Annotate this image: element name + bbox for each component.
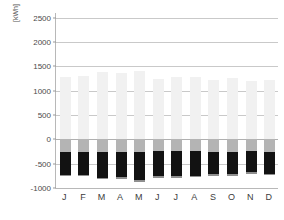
bar-segment-negative-black (134, 152, 145, 180)
bar-segment-positive-light (246, 81, 257, 139)
x-tick-label: D (265, 192, 272, 202)
bar-segment-negative-black (208, 152, 219, 175)
bar-segment-negative-black (153, 151, 164, 176)
x-tick-label: J (62, 192, 67, 202)
bar-segment-negative-gray-lower (208, 174, 219, 176)
bar-group[interactable] (171, 13, 182, 188)
bar-segment-positive-light (264, 80, 275, 139)
bar-segment-negative-gray-lower (78, 175, 89, 177)
x-tick-label: M (98, 192, 106, 202)
bar-segment-negative-black (171, 151, 182, 176)
bar-group[interactable] (134, 13, 145, 188)
x-axis-line (55, 188, 278, 189)
x-axis-ticks: JFMAMJJASOND (55, 192, 278, 212)
y-tick-label: -1000 (31, 184, 51, 193)
bar-segment-negative-gray-upper (246, 139, 257, 151)
energy-bar-chart: [kWh] 25002000150010005000-500-1000 JFMA… (0, 0, 284, 220)
plot-area: 25002000150010005000-500-1000 (55, 13, 278, 188)
bar-segment-negative-gray-lower (60, 175, 71, 176)
bar-segment-positive-light (190, 77, 201, 140)
bar-segment-negative-black (97, 152, 108, 178)
bar-segment-positive-light (227, 78, 238, 139)
bar-group[interactable] (60, 13, 71, 188)
bar-segment-negative-black (264, 152, 275, 174)
bar-group[interactable] (264, 13, 275, 188)
bar-group[interactable] (190, 13, 201, 188)
bar-segment-positive-light (208, 80, 219, 140)
y-tick-label: 1500 (33, 62, 51, 71)
bar-segment-positive-light (134, 71, 145, 139)
bar-segment-positive-light (153, 79, 164, 140)
bar-segment-negative-gray-upper (264, 139, 275, 151)
bar-group[interactable] (153, 13, 164, 188)
bar-segment-negative-gray-lower (190, 176, 201, 178)
bar-segment-negative-gray-lower (227, 174, 238, 176)
x-tick-label: J (174, 192, 179, 202)
bar-segment-negative-gray-upper (227, 139, 238, 151)
bar-segment-negative-black (60, 152, 71, 175)
bar-segment-negative-black (116, 152, 127, 177)
x-tick-label: J (155, 192, 160, 202)
bar-segment-negative-black (227, 152, 238, 175)
bar-segment-negative-gray-lower (134, 180, 145, 182)
x-tick-label: O (228, 192, 235, 202)
y-tick-label: -500 (35, 159, 51, 168)
x-tick-label: A (117, 192, 123, 202)
y-tick-label: 2000 (33, 38, 51, 47)
bar-segment-negative-gray-lower (171, 176, 182, 178)
bar-segment-negative-gray-upper (116, 139, 127, 151)
bar-segment-negative-gray-lower (246, 172, 257, 173)
x-tick-label: F (80, 192, 86, 202)
bar-group[interactable] (78, 13, 89, 188)
bar-group[interactable] (227, 13, 238, 188)
bar-segment-positive-light (60, 77, 71, 140)
bar-group[interactable] (116, 13, 127, 188)
bar-segment-positive-light (78, 76, 89, 139)
x-tick-label: A (191, 192, 197, 202)
bar-segment-negative-gray-upper (78, 139, 89, 151)
x-tick-label: S (210, 192, 216, 202)
bar-segment-negative-gray-upper (60, 139, 71, 151)
x-tick-label: M (135, 192, 143, 202)
bar-segment-negative-gray-lower (264, 174, 275, 176)
y-tick-label: 500 (38, 111, 51, 120)
bar-segment-negative-gray-upper (190, 139, 201, 151)
bar-segment-negative-gray-upper (153, 139, 164, 151)
bar-group[interactable] (97, 13, 108, 188)
bar-segment-negative-black (78, 152, 89, 175)
bar-segment-negative-gray-upper (208, 139, 219, 151)
y-axis-unit-label: [kWh] (12, 0, 24, 22)
bar-segment-positive-light (116, 73, 127, 140)
bars-layer (56, 13, 278, 188)
bar-segment-positive-light (171, 77, 182, 140)
y-tick-label: 1000 (33, 86, 51, 95)
x-tick-label: N (247, 192, 254, 202)
bar-segment-negative-gray-lower (116, 177, 127, 179)
bar-segment-negative-gray-lower (153, 176, 164, 178)
bar-segment-negative-gray-upper (97, 139, 108, 151)
bar-segment-negative-black (246, 151, 257, 172)
bar-group[interactable] (246, 13, 257, 188)
bar-segment-negative-gray-upper (171, 139, 182, 151)
bar-segment-positive-light (97, 72, 108, 139)
y-tick-label: 0 (47, 135, 51, 144)
bar-group[interactable] (208, 13, 219, 188)
bar-segment-negative-black (190, 151, 201, 175)
y-tick-label: 2500 (33, 13, 51, 22)
bar-segment-negative-gray-upper (134, 139, 145, 151)
bar-segment-negative-gray-lower (97, 178, 108, 180)
